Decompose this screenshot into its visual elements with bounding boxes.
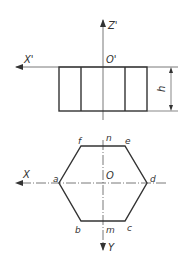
label-o: O — [106, 170, 114, 181]
vertex-m-label: m — [106, 225, 115, 235]
vertex-e-label: e — [125, 136, 131, 146]
label-z-prime: Z' — [107, 20, 118, 31]
vertex-b-label: b — [75, 225, 81, 235]
label-h: h — [156, 86, 167, 92]
vertex-n-label: n — [106, 133, 112, 143]
vertex-c-label: c — [127, 223, 132, 233]
vertex-d-label: d — [150, 174, 156, 184]
dim-arrow-bottom — [169, 105, 173, 111]
front-view: X' Z' O' h — [16, 20, 178, 120]
vertex-f-label: f — [78, 136, 83, 146]
dim-arrow-top — [169, 67, 173, 73]
vertex-a-label: a — [53, 174, 59, 184]
label-o-prime: O' — [106, 54, 117, 65]
projection-diagram: X' Z' O' h X Y O a b c d e f m n — [0, 0, 188, 266]
label-x-prime: X' — [23, 54, 34, 65]
top-view: X Y O a b c d e f m n — [16, 133, 166, 253]
label-y: Y — [108, 242, 115, 253]
label-x: X — [22, 169, 31, 180]
